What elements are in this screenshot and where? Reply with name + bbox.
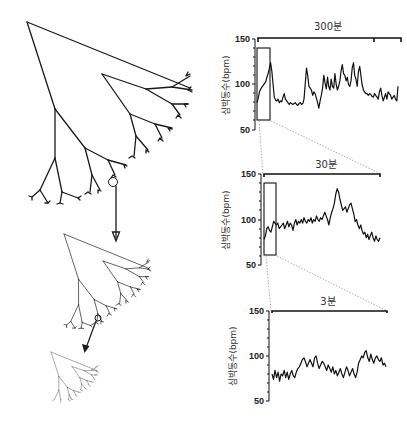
y-tick-150: 150 [249, 306, 264, 316]
y-axis-label: 심박동수(bpm) [221, 55, 231, 114]
fractal-tree-medium [64, 234, 151, 329]
y-tick-50: 50 [240, 125, 250, 135]
heart-rate-trace [272, 351, 386, 382]
chart-title: 300분 [314, 21, 342, 32]
time-span-bracket [264, 174, 380, 177]
fractal-tree-large [27, 22, 192, 241]
y-tick-100: 100 [249, 351, 264, 361]
y-tick-50: 50 [246, 260, 256, 270]
y-tick-150: 150 [241, 169, 256, 179]
zoom-guide-left [266, 256, 271, 311]
y-tick-100: 100 [241, 215, 256, 225]
heart-rate-trace [264, 189, 380, 242]
y-tick-50: 50 [254, 396, 264, 406]
y-axis-label: 심박동수(bpm) [221, 190, 231, 249]
chart-30min: 30분 150 100 50 심박동수(bpm) [221, 159, 380, 270]
heart-rate-trace [257, 63, 398, 108]
chart-title: 3분 [320, 296, 335, 307]
chart-300min: 300분 150 100 50 심박동수(bpm) [221, 21, 401, 135]
zoom-arrow-2 [82, 315, 101, 353]
time-span-bracket [258, 38, 401, 42]
chart-title: 30분 [315, 159, 337, 170]
zoom-guide-left [259, 121, 263, 174]
fractal-tree-small [51, 352, 99, 402]
time-span-bracket [272, 311, 387, 313]
figure-canvas: 300분 150 100 50 심박동수(bpm) 30분 150 100 50 [0, 0, 407, 424]
y-tick-100: 100 [235, 79, 250, 89]
y-axis-label: 심박동수(bpm) [228, 326, 238, 385]
y-tick-150: 150 [235, 34, 250, 44]
chart-3min: 3분 150 100 50 심박동수(bpm) [228, 296, 387, 406]
zoom-window-box [264, 183, 276, 255]
